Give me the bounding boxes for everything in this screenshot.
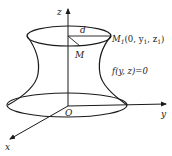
y-axis xyxy=(68,104,166,106)
x-axis-label: x xyxy=(5,142,10,152)
point-M1-label: M1(0, y1, z1) xyxy=(111,34,164,45)
z-axis-label: z xyxy=(56,7,62,17)
point-M-label: M xyxy=(74,50,85,60)
radius-to-M-line xyxy=(68,36,80,46)
origin-label: O xyxy=(65,108,73,118)
curve-equation-label: f(y, z)=0 xyxy=(111,66,148,76)
distance-d-label: d xyxy=(80,25,86,35)
surface-of-revolution-diagram: z d M M1(0, y1, z1) f(y, z)=0 O y x xyxy=(0,0,172,156)
x-axis xyxy=(10,106,68,139)
y-axis-label: y xyxy=(160,109,167,119)
